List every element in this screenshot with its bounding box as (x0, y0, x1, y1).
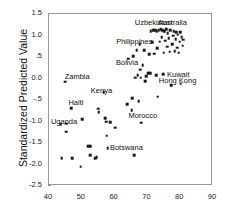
y-axis-title: Standardized Predicted Value (17, 18, 29, 178)
data-point (182, 45, 185, 48)
data-point (97, 107, 100, 110)
data-point (156, 47, 159, 50)
data-point (164, 39, 167, 42)
data-point (98, 111, 101, 114)
data-point (126, 103, 129, 106)
data-point (109, 121, 112, 124)
data-point (132, 55, 135, 58)
data-point (182, 39, 185, 42)
data-point (168, 51, 171, 54)
x-tick-label: 80 (175, 192, 183, 201)
data-point (114, 126, 117, 129)
data-point (157, 95, 160, 98)
y-tick-label: -1.0 (29, 116, 42, 125)
data-point (140, 121, 143, 124)
data-point (173, 50, 176, 53)
data-point (136, 74, 139, 77)
data-point (178, 51, 181, 54)
data-point (106, 147, 109, 150)
data-point (131, 97, 134, 100)
data-point (81, 118, 84, 121)
data-point (89, 154, 92, 157)
point-annotation: Morocco (128, 113, 157, 121)
data-point (80, 165, 83, 168)
x-tick-label: 50 (77, 192, 85, 201)
data-point (159, 40, 162, 43)
y-tick-label: 1.0 (32, 30, 42, 39)
x-tick-label: 90 (208, 192, 216, 201)
data-point (171, 43, 174, 46)
y-tick-label: -2.0 (29, 159, 42, 168)
data-point (133, 154, 136, 157)
x-tick-label: 60 (109, 192, 117, 201)
data-point (95, 156, 98, 159)
data-point (136, 49, 139, 52)
data-point (145, 75, 148, 78)
data-point (139, 69, 142, 72)
y-tick-label: 1.5 (32, 8, 42, 17)
data-point (167, 37, 170, 40)
y-tick-label: -1.5 (29, 137, 42, 146)
data-point (166, 45, 169, 48)
data-point (65, 131, 68, 134)
point-annotation: Botswana (110, 144, 143, 152)
point-annotation: Australia (158, 19, 187, 27)
data-point (176, 46, 179, 49)
data-point (153, 52, 156, 55)
x-tick-label: 40 (44, 192, 52, 201)
data-point (177, 33, 180, 36)
data-point (142, 64, 145, 67)
data-point (105, 134, 108, 137)
point-annotation: Kenya (91, 88, 112, 96)
y-tick-label: .5 (36, 51, 42, 60)
point-annotation: Zambia (65, 73, 90, 81)
data-point (134, 76, 137, 79)
data-point (148, 53, 151, 56)
data-point (162, 73, 165, 76)
data-point (144, 80, 147, 83)
data-point (174, 38, 177, 41)
y-tick-mark (48, 185, 51, 186)
data-point (60, 157, 63, 160)
data-point (165, 28, 168, 31)
data-point (179, 31, 182, 34)
x-tick-label: 70 (142, 192, 150, 201)
data-point (178, 40, 181, 43)
y-tick-label: 0.0 (32, 73, 42, 82)
data-point (143, 49, 146, 52)
point-annotation: Philippines (116, 38, 152, 46)
data-point (140, 76, 143, 79)
data-point (166, 32, 169, 35)
scatter-chart: Standardized Predicted Value 1.51.0.50.0… (0, 0, 233, 210)
data-point (169, 29, 172, 32)
data-point (149, 72, 152, 75)
point-annotation: Bolivia (116, 59, 138, 67)
y-tick-label: -2.5 (29, 180, 42, 189)
data-point (160, 36, 163, 39)
data-point (71, 157, 74, 160)
point-annotation: Haiti (68, 100, 83, 108)
point-annotation: Uganda (51, 118, 77, 126)
plot-area: UzbekistanAustraliaPhilippinesBoliviaKuw… (48, 13, 212, 185)
y-tick-label: -.5 (33, 94, 42, 103)
data-point (172, 34, 175, 37)
data-point (105, 120, 108, 123)
point-annotation: Hong Kong (159, 77, 197, 85)
data-point (137, 100, 140, 103)
data-point (104, 117, 107, 120)
data-point (155, 74, 158, 77)
data-point (163, 51, 166, 54)
data-point (89, 145, 92, 148)
